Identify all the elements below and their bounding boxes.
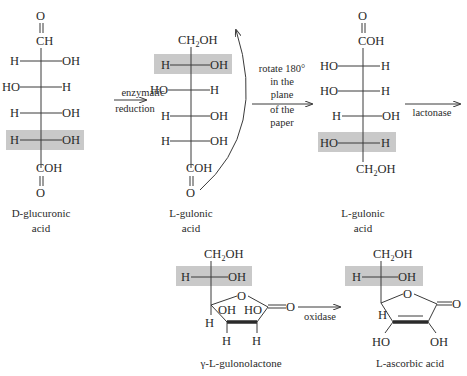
- oh-left: OH: [218, 303, 236, 317]
- caption-line2: acid: [354, 222, 373, 234]
- row-right: H: [381, 59, 390, 73]
- l-gulonic-acid-structure-2: O COH HO H HO H H OH HO H CH2OH L-guloni…: [318, 9, 400, 234]
- row-left: H: [332, 109, 341, 123]
- arrow-label-1: rotate 180°: [259, 63, 305, 74]
- row-left: HO: [2, 80, 20, 94]
- ch2oh-top: CH2OH: [204, 247, 243, 263]
- h-c2: H: [252, 334, 261, 348]
- arrow-label: lactonase: [412, 107, 451, 118]
- side-right: OH: [228, 270, 246, 284]
- vitamin-c-biosynthesis-diagram: O CH H OH HO H H OH H OH COH O D-glucuro…: [0, 0, 467, 376]
- top-oxygen: O: [358, 9, 367, 23]
- side-left: H: [181, 270, 190, 284]
- carbonyl-oxygen: O: [286, 300, 295, 314]
- arrow-label-3: plane: [271, 89, 294, 100]
- lactonase-arrow: lactonase: [405, 104, 460, 118]
- ascorbic-acid-structure: CH2OH H OH O O H HO OH L-ascorbic acid: [345, 247, 461, 369]
- arrow-label-4: of the: [270, 104, 295, 115]
- row-right: OH: [62, 106, 80, 120]
- caption: γ-L-gulonolactone: [199, 357, 281, 369]
- ch2oh-top: CH2OH: [178, 33, 217, 49]
- oh-right: HO: [244, 303, 262, 317]
- bottom-oxygen: O: [186, 186, 195, 200]
- row-left: H: [10, 106, 19, 120]
- ch2oh-top: CH2OH: [373, 247, 412, 263]
- row-right: H: [62, 80, 71, 94]
- row-right: OH: [382, 109, 400, 123]
- arrow-label-2: in the: [270, 76, 294, 87]
- carboxyl-coh: COH: [36, 161, 62, 175]
- caption-line1: L-gulonic: [341, 207, 384, 219]
- oxidase-arrow: oxidase: [298, 307, 340, 322]
- row-right: H: [381, 136, 390, 150]
- oh-right: OH: [430, 335, 448, 349]
- caption-line1: L-gulonic: [169, 207, 212, 219]
- h-c4: H: [378, 308, 387, 322]
- row-right: OH: [210, 134, 228, 148]
- row-right: OH: [62, 54, 80, 68]
- row-left: HO: [320, 84, 338, 98]
- caption-line2: acid: [32, 222, 51, 234]
- ring-oxygen: O: [237, 289, 246, 303]
- row-right: OH: [210, 58, 228, 72]
- ring-oxygen: O: [403, 287, 412, 301]
- carboxyl-coh: COH: [358, 34, 384, 48]
- oh-left: HO: [372, 335, 390, 349]
- row-left: HO: [320, 136, 338, 150]
- carbonyl-oxygen: O: [452, 297, 461, 311]
- row-left: H: [10, 133, 19, 147]
- row-left: H: [10, 54, 19, 68]
- bottom-oxygen: O: [36, 186, 45, 200]
- h-c4: H: [205, 316, 214, 330]
- row-left: HO: [320, 59, 338, 73]
- arrow-label-5: paper: [270, 117, 294, 128]
- row-right: H: [381, 84, 390, 98]
- ch2oh-bottom: CH2OH: [356, 162, 395, 178]
- arrow-label: oxidase: [304, 311, 336, 322]
- caption: L-ascorbic acid: [376, 357, 445, 369]
- caption-line2: acid: [182, 222, 201, 234]
- h-c3: H: [222, 334, 231, 348]
- caption-line1: D-glucuronic: [12, 207, 71, 219]
- arrow-label-2: reduction: [115, 103, 155, 114]
- row-left: H: [161, 109, 170, 123]
- row-left: H: [161, 134, 170, 148]
- aldehyde-ch: CH: [36, 34, 53, 48]
- row-right: H: [210, 83, 219, 97]
- top-oxygen: O: [36, 9, 45, 23]
- rotate-180-arrow: rotate 180° in the plane of the paper: [252, 63, 312, 128]
- carboxyl-coh: COH: [186, 161, 212, 175]
- row-right: OH: [210, 109, 228, 123]
- side-left: H: [352, 270, 361, 284]
- side-right: OH: [398, 270, 416, 284]
- row-left: H: [161, 58, 170, 72]
- l-gulonic-acid-structure-1: CH2OH H OH HO H H OH H OH COH O L-guloni…: [150, 33, 232, 234]
- d-glucuronic-acid-structure: O CH H OH HO H H OH H OH COH O D-glucuro…: [2, 9, 84, 234]
- row-right: OH: [62, 133, 80, 147]
- row-left: HO: [150, 83, 168, 97]
- gulonolactone-structure: CH2OH H OH O O OH HO H H H γ-L-gulonolac…: [176, 247, 295, 369]
